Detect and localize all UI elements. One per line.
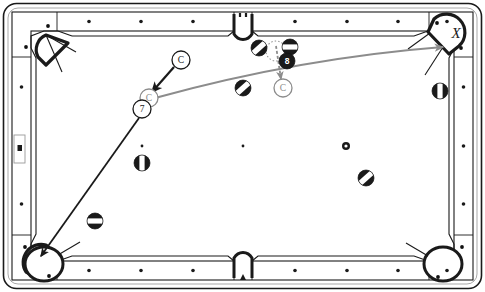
ball-small-marker: [342, 142, 350, 150]
rail-diamond: [396, 269, 400, 273]
pool-table-diagram: 8 CC7C X: [0, 0, 485, 292]
rail-diamond: [20, 85, 24, 89]
cue-ball-start-label: C: [172, 51, 190, 69]
rail-diamond: [87, 269, 91, 273]
cue-ball-after-label-label: C: [280, 83, 286, 93]
rail-diamond: [462, 144, 466, 148]
ball-striped-d: [432, 83, 448, 99]
ball-eight-label: 8: [285, 56, 290, 66]
rail-diamond: [293, 20, 297, 24]
ball-striped-e: [134, 155, 150, 171]
object-ball-seven: 7: [133, 100, 151, 118]
rail-diamond: [191, 20, 195, 24]
pocket-top-middle[interactable]: [234, 13, 252, 40]
rail-diamond: [139, 20, 143, 24]
rail-diamond: [445, 269, 449, 273]
pocket-target-x: X: [450, 25, 461, 41]
rail-diamond: [396, 20, 400, 24]
ball-striped-g: [87, 213, 103, 229]
table-spot-left: [141, 145, 144, 148]
ball-striped-b: [282, 39, 298, 55]
pocket-bottom-middle[interactable]: [234, 252, 252, 280]
rail-diamond: [191, 269, 195, 273]
table-svg: 8 CC7C X: [0, 0, 485, 292]
rail-diamond: [87, 20, 91, 24]
cue-ball-after-label: C: [274, 79, 292, 97]
ball-eight: 8: [279, 53, 295, 69]
rail-diamond: [462, 85, 466, 89]
rail-diamond: [462, 202, 466, 206]
rail-diamond: [445, 20, 449, 24]
rail-diamond: [345, 269, 349, 273]
rail-diamond: [293, 269, 297, 273]
rail-diamond: [345, 20, 349, 24]
rail-diamond: [139, 269, 143, 273]
left-rail-marker: [14, 135, 25, 163]
cue-ball-start-label-label: C: [178, 55, 184, 65]
table-spot-center: [242, 145, 245, 148]
rail-diamond: [20, 202, 24, 206]
object-ball-seven-label: 7: [140, 104, 145, 114]
